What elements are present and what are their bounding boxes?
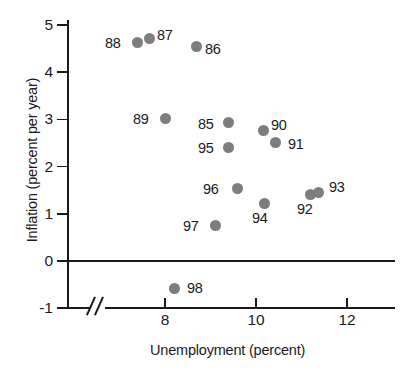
axis-break-icon — [86, 296, 110, 318]
x-axis-title: Unemployment (percent) — [150, 342, 305, 358]
y-tick-mark — [57, 213, 67, 215]
x-tick-label: 8 — [145, 312, 185, 328]
y-tick-mark — [57, 260, 67, 262]
data-point-label: 90 — [271, 118, 287, 133]
x-tick-label: 12 — [327, 312, 367, 328]
data-point-label: 88 — [105, 36, 121, 51]
zero-reference-line — [67, 260, 395, 262]
y-tick-label: 1 — [13, 206, 53, 222]
data-point-label: 89 — [133, 112, 149, 127]
x-tick-mark — [255, 298, 257, 308]
data-point-label: 97 — [183, 219, 199, 234]
data-point-marker — [223, 117, 234, 128]
x-tick-label: 10 — [236, 312, 276, 328]
data-point-marker — [160, 113, 171, 124]
data-point-label: 86 — [205, 42, 221, 57]
y-axis-line — [67, 20, 69, 309]
y-tick-mark — [57, 166, 67, 168]
data-point-marker — [144, 33, 155, 44]
y-tick-label: 3 — [13, 111, 53, 127]
data-point-label: 94 — [252, 211, 268, 226]
y-tick-mark — [57, 119, 67, 121]
data-point-marker — [169, 283, 180, 294]
data-point-label: 92 — [297, 202, 313, 217]
x-axis-line — [105, 307, 395, 309]
scatter-plot-figure: Inflation (percent per year) Unemploymen… — [0, 0, 405, 383]
data-point-marker — [223, 142, 234, 153]
y-tick-label: 4 — [13, 64, 53, 80]
x-tick-mark — [346, 298, 348, 308]
y-tick-label: 0 — [13, 253, 53, 269]
data-point-label: 93 — [329, 180, 345, 195]
data-point-marker — [210, 220, 221, 231]
data-point-marker — [258, 125, 269, 136]
data-point-label: 91 — [288, 137, 304, 152]
y-tick-mark — [57, 307, 67, 309]
data-point-marker — [132, 37, 143, 48]
data-point-marker — [270, 137, 281, 148]
data-point-label: 98 — [187, 281, 203, 296]
data-point-marker — [191, 41, 202, 52]
data-point-label: 95 — [198, 141, 214, 156]
data-point-marker — [232, 183, 243, 194]
y-tick-label: 2 — [13, 159, 53, 175]
y-tick-mark — [57, 71, 67, 73]
y-tick-mark — [57, 24, 67, 26]
data-point-marker — [313, 187, 324, 198]
y-tick-label: -1 — [13, 300, 53, 316]
data-point-label: 85 — [198, 117, 214, 132]
y-tick-label: 5 — [13, 17, 53, 33]
data-point-label: 96 — [203, 182, 219, 197]
data-point-marker — [259, 198, 270, 209]
x-tick-mark — [164, 298, 166, 308]
data-point-label: 87 — [157, 28, 173, 43]
